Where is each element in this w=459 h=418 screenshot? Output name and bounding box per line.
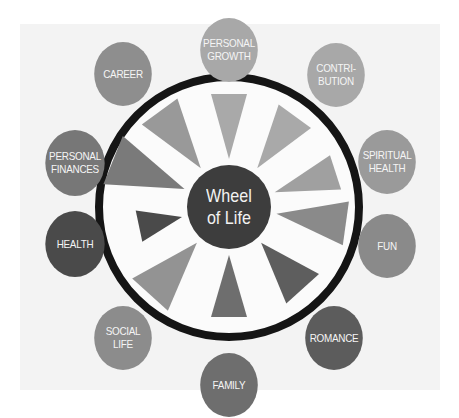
hub-title-line1: Wheel xyxy=(206,185,252,207)
node-personal-growth: PERSONAL GROWTH xyxy=(200,18,258,82)
node-fun: FUN xyxy=(358,214,416,278)
node-label: SOCIAL LIFE xyxy=(106,325,141,351)
node-career: CAREER xyxy=(94,42,152,106)
node-label: SPIRITUAL HEALTH xyxy=(363,149,412,175)
node-social-life: SOCIAL LIFE xyxy=(94,306,152,370)
node-label: HEALTH xyxy=(57,238,94,251)
node-label: CONTRI- BUTION xyxy=(316,62,355,88)
node-personal-finances: PERSONAL FINANCES xyxy=(45,130,104,196)
node-health: HEALTH xyxy=(45,211,104,277)
node-label: PERSONAL GROWTH xyxy=(203,37,255,63)
node-label: PERSONAL FINANCES xyxy=(49,150,101,176)
node-label: FAMILY xyxy=(213,379,246,392)
node-label: CAREER xyxy=(103,68,143,81)
hub-title-line2: of Life xyxy=(207,207,251,229)
node-contribution: CONTRI- BUTION xyxy=(307,43,365,107)
node-family: FAMILY xyxy=(200,353,258,417)
node-label: FUN xyxy=(377,240,397,253)
node-label: ROMANCE xyxy=(310,332,359,345)
wheel-of-life-hub: Wheel of Life xyxy=(187,165,271,249)
node-spiritual-health: SPIRITUAL HEALTH xyxy=(358,130,416,194)
node-romance: ROMANCE xyxy=(305,306,363,370)
